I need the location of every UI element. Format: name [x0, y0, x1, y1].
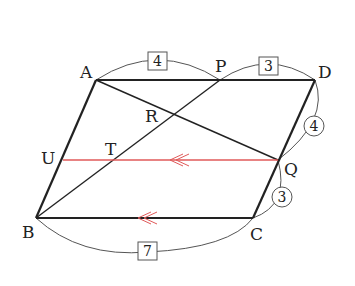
- svg-text:4: 4: [310, 118, 319, 134]
- svg-text:3: 3: [264, 58, 273, 74]
- label-U: U: [41, 148, 55, 168]
- svg-text:3: 3: [278, 189, 287, 205]
- geometry-diagram: 4 3 4 3 7 A P D R U T Q B C: [0, 0, 355, 286]
- label-A: A: [79, 62, 93, 82]
- measure-PD: 3: [259, 57, 278, 75]
- label-R: R: [145, 106, 159, 126]
- svg-text:7: 7: [143, 243, 152, 259]
- segment-BP: [36, 80, 220, 218]
- svg-text:4: 4: [153, 53, 162, 69]
- label-C: C: [250, 224, 263, 244]
- measure-DQ: 4: [304, 116, 324, 136]
- label-T: T: [105, 139, 117, 159]
- label-P: P: [215, 56, 226, 76]
- measure-AP: 4: [148, 52, 167, 70]
- label-D: D: [318, 62, 332, 82]
- measure-BC: 7: [138, 242, 157, 260]
- segment-AQ: [96, 80, 278, 160]
- label-B: B: [22, 222, 35, 242]
- label-Q: Q: [284, 159, 298, 179]
- measure-QC: 3: [272, 187, 292, 207]
